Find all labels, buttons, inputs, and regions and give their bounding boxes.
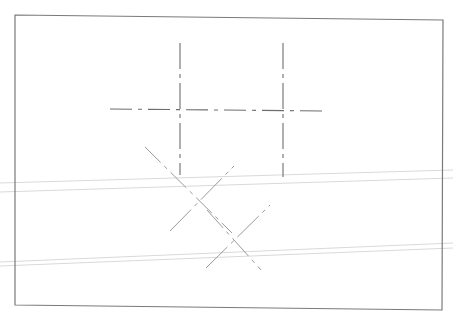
diagonal-x2-b bbox=[206, 205, 270, 268]
drawing-canvas bbox=[0, 0, 453, 319]
scan-artifact-line bbox=[0, 248, 453, 266]
centerlines bbox=[110, 43, 328, 177]
diagonal-x2-a bbox=[207, 210, 261, 270]
scan-artifact-lines bbox=[0, 170, 453, 266]
diagonal-x1-b bbox=[170, 166, 234, 231]
scan-artifact-line bbox=[0, 178, 453, 192]
technical-drawing bbox=[0, 0, 453, 319]
diagonal-x1-a bbox=[145, 147, 232, 233]
drawing-border bbox=[15, 15, 443, 310]
scan-artifact-line bbox=[0, 243, 453, 262]
scan-artifact-line bbox=[0, 170, 453, 183]
centerline-horizontal bbox=[110, 109, 328, 111]
